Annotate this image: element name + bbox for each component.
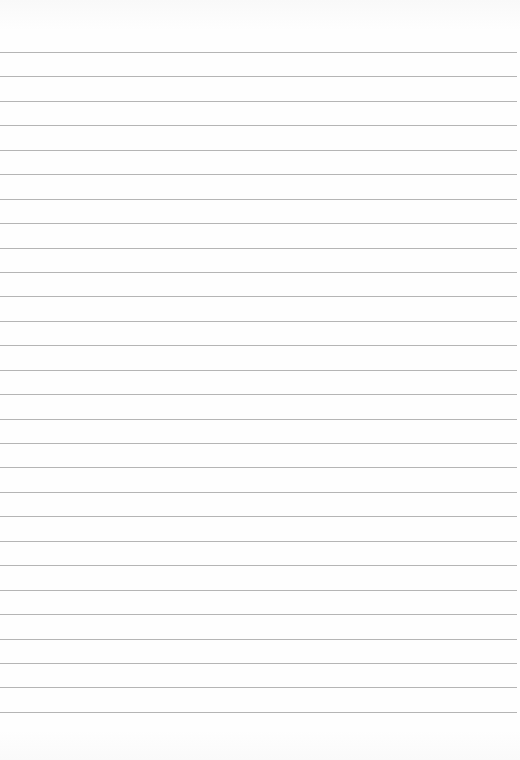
- ruled-line: [0, 223, 517, 224]
- ruled-line: [0, 76, 517, 77]
- ruled-line: [0, 687, 517, 688]
- ruled-line: [0, 492, 517, 493]
- ruled-line: [0, 345, 517, 346]
- ruled-line: [0, 174, 517, 175]
- lined-paper-sheet: [0, 0, 520, 760]
- ruled-line: [0, 590, 517, 591]
- ruled-line: [0, 125, 517, 126]
- ruled-line: [0, 516, 517, 517]
- ruled-line: [0, 101, 517, 102]
- ruled-line: [0, 272, 517, 273]
- ruled-line: [0, 150, 517, 151]
- ruled-line: [0, 52, 517, 53]
- ruled-line: [0, 541, 517, 542]
- ruled-line: [0, 370, 517, 371]
- ruled-line: [0, 199, 517, 200]
- ruled-line: [0, 565, 517, 566]
- ruled-line: [0, 248, 517, 249]
- ruled-line: [0, 443, 517, 444]
- ruled-line: [0, 639, 517, 640]
- ruled-line: [0, 712, 517, 713]
- ruled-line: [0, 394, 517, 395]
- ruled-line: [0, 321, 517, 322]
- ruled-line: [0, 467, 517, 468]
- ruled-line: [0, 663, 517, 664]
- ruled-line: [0, 614, 517, 615]
- ruled-line: [0, 296, 517, 297]
- ruled-line: [0, 419, 517, 420]
